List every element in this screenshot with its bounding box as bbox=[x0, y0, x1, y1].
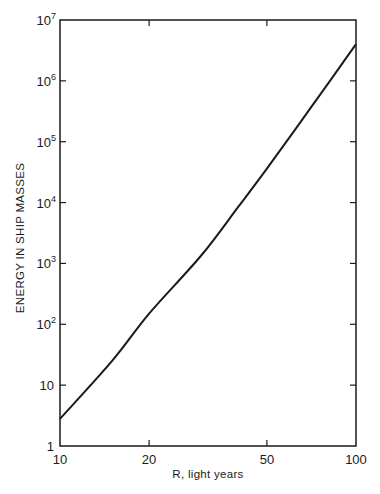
y-tick-label: 10 bbox=[40, 378, 54, 393]
y-tick-label: 1 bbox=[47, 439, 54, 454]
energy-curve bbox=[60, 44, 356, 419]
energy-vs-distance-chart: 102050100 110102103104105106107 R, light… bbox=[0, 0, 380, 494]
y-tick-label: 103 bbox=[37, 254, 56, 271]
y-tick-label: 102 bbox=[37, 315, 56, 332]
plot-frame bbox=[60, 20, 356, 446]
x-tick-label: 100 bbox=[345, 452, 367, 467]
y-tick-label: 107 bbox=[37, 11, 56, 28]
x-tick-label: 10 bbox=[53, 452, 67, 467]
x-tick-label: 20 bbox=[142, 452, 156, 467]
y-tick-label: 105 bbox=[37, 133, 56, 150]
x-axis-label: R, light years bbox=[172, 468, 243, 480]
y-tick-label: 104 bbox=[37, 194, 56, 211]
x-tick-label: 50 bbox=[260, 452, 274, 467]
plot-border bbox=[60, 20, 356, 446]
y-tick-label: 106 bbox=[37, 72, 56, 89]
y-axis-label: ENERGY IN SHIP MASSES bbox=[14, 163, 26, 313]
y-axis-ticks: 110102103104105106107 bbox=[37, 11, 356, 454]
